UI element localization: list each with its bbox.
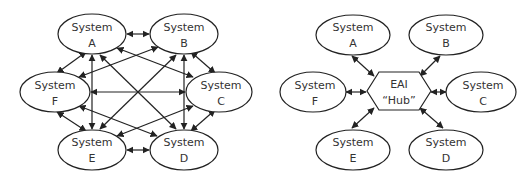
integration-diagrams: System A System B System C System D Syst…	[0, 0, 532, 178]
node-label: System	[294, 79, 335, 92]
edge-b-c	[191, 52, 215, 73]
node-system-e: System E	[58, 130, 126, 170]
node-id: A	[349, 37, 357, 50]
edge-a-f	[57, 52, 86, 73]
node-label: System	[200, 79, 241, 92]
node-id: B	[442, 37, 450, 50]
point-to-point-diagram: System A System B System C System D Syst…	[20, 14, 252, 170]
hub-node-system-f: System F	[280, 72, 346, 112]
node-label: System	[163, 136, 204, 149]
spoke-d	[420, 108, 443, 128]
eai-hub: EAI “Hub”	[367, 72, 431, 110]
node-system-b: System B	[150, 14, 218, 54]
hub-node-system-a: System A	[316, 15, 390, 55]
node-id: B	[180, 37, 188, 50]
node-id: F	[52, 95, 58, 108]
node-id: E	[89, 152, 96, 165]
node-label: System	[332, 21, 373, 34]
hub-node-system-c: System C	[446, 72, 516, 112]
node-label: System	[34, 79, 75, 92]
node-id: F	[312, 95, 318, 108]
node-id: D	[180, 152, 188, 165]
hub-node-system-e: System E	[316, 130, 390, 170]
node-system-f: System F	[20, 72, 90, 112]
node-id: A	[88, 37, 96, 50]
node-id: D	[442, 152, 450, 165]
node-system-a: System A	[58, 14, 126, 54]
node-label: System	[425, 136, 466, 149]
edge-d-c	[191, 110, 215, 131]
node-label: System	[163, 21, 204, 34]
node-label: System	[462, 79, 503, 92]
node-label: System	[425, 21, 466, 34]
node-id: C	[217, 95, 225, 108]
node-system-d: System D	[150, 130, 218, 170]
node-id: E	[350, 152, 357, 165]
node-label: System	[71, 21, 112, 34]
spoke-e	[352, 108, 374, 128]
node-id: C	[479, 95, 487, 108]
hub-node-system-b: System B	[409, 15, 483, 55]
spoke-b	[420, 56, 440, 76]
hub-sublabel: “Hub”	[382, 94, 415, 107]
node-label: System	[71, 136, 112, 149]
edge-e-f	[57, 112, 86, 131]
spoke-a	[352, 56, 374, 76]
node-system-c: System C	[186, 72, 252, 112]
hub-label: EAI	[390, 78, 408, 91]
node-label: System	[332, 136, 373, 149]
hub-node-system-d: System D	[409, 130, 483, 170]
hub-and-spoke-diagram: EAI “Hub” System A System B System C Sys…	[280, 15, 516, 170]
